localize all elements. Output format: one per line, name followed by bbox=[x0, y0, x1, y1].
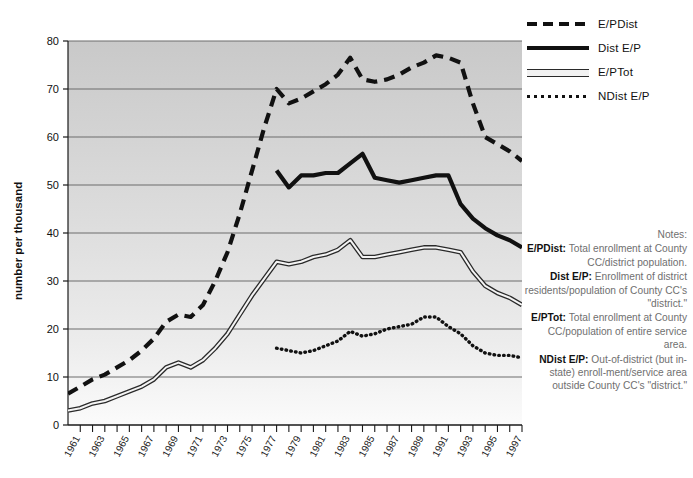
chart-figure: 01020304050607080 1961196319651967196919… bbox=[0, 0, 693, 478]
x-tick-labels: 1961196319651967196919711973197519771979… bbox=[62, 433, 524, 458]
legend-swatch-icon bbox=[527, 42, 589, 54]
legend-line-solid bbox=[527, 46, 589, 50]
notes-heading: Notes: bbox=[523, 228, 687, 241]
note-entry: NDist E/P: Out-of-district (but in-state… bbox=[523, 353, 687, 393]
note-term: NDist E/P: bbox=[539, 354, 588, 365]
note-entry: E/PTot: Total enrollment at County CC/po… bbox=[523, 311, 687, 351]
x-tick-label: 1965 bbox=[111, 433, 131, 458]
note-text: Total enrollment at County CC/district p… bbox=[566, 243, 687, 267]
x-tick-label: 1997 bbox=[504, 433, 524, 458]
y-tick-labels: 01020304050607080 bbox=[47, 35, 59, 431]
x-tick-label: 1973 bbox=[209, 433, 229, 458]
x-ticks bbox=[80, 425, 522, 432]
x-tick-label: 1989 bbox=[405, 433, 425, 458]
legend-item-e-ptot[interactable]: E/PTot bbox=[527, 60, 687, 84]
note-term: E/PDist: bbox=[527, 243, 566, 254]
note-entry: E/PDist: Total enrollment at County CC/d… bbox=[523, 242, 687, 269]
y-tick-label: 30 bbox=[47, 275, 59, 287]
legend-line-double bbox=[527, 69, 589, 77]
legend-swatch-icon bbox=[527, 18, 589, 30]
y-tick-label: 80 bbox=[47, 35, 59, 47]
x-tick-label: 1969 bbox=[160, 433, 180, 458]
note-text: Total enrollment at County CC/population… bbox=[548, 312, 687, 350]
chart-legend: E/PDistDist E/PE/PTotNDist E/P bbox=[527, 12, 687, 108]
note-term: E/PTot: bbox=[531, 312, 566, 323]
legend-swatch-icon bbox=[527, 66, 589, 78]
x-tick-label: 1979 bbox=[283, 433, 303, 458]
legend-label: Dist E/P bbox=[598, 42, 641, 54]
x-tick-label: 1987 bbox=[381, 433, 401, 458]
notes-body: E/PDist: Total enrollment at County CC/d… bbox=[523, 242, 687, 392]
y-tick-label: 70 bbox=[47, 83, 59, 95]
note-entry: Dist E/P: Enrollment of district residen… bbox=[523, 270, 687, 310]
x-tick-label: 1993 bbox=[455, 433, 475, 458]
legend-label: E/PDist bbox=[598, 18, 638, 30]
y-tick-label: 60 bbox=[47, 131, 59, 143]
x-tick-label: 1985 bbox=[356, 433, 376, 458]
legend-label: E/PTot bbox=[598, 66, 633, 78]
x-tick-label: 1991 bbox=[430, 433, 450, 458]
legend-item-dist-e-p[interactable]: Dist E/P bbox=[527, 36, 687, 60]
legend-item-ndist-e-p[interactable]: NDist E/P bbox=[527, 84, 687, 108]
x-tick-label: 1977 bbox=[258, 433, 278, 458]
note-term: Dist E/P: bbox=[550, 271, 592, 282]
chart-notes: Notes: E/PDist: Total enrollment at Coun… bbox=[523, 228, 687, 394]
y-tick-label: 10 bbox=[47, 371, 59, 383]
x-tick-label: 1975 bbox=[234, 433, 254, 458]
y-tick-label: 20 bbox=[47, 323, 59, 335]
legend-line-dotted bbox=[527, 95, 589, 98]
legend-item-e-pdist[interactable]: E/PDist bbox=[527, 12, 687, 36]
y-axis-title: number per thousand bbox=[12, 182, 24, 300]
legend-line-dashed bbox=[527, 22, 589, 26]
x-tick-label: 1971 bbox=[185, 433, 205, 458]
y-tick-label: 0 bbox=[53, 419, 59, 431]
x-tick-label: 1963 bbox=[86, 433, 106, 458]
x-tick-label: 1981 bbox=[307, 433, 327, 458]
legend-swatch-icon bbox=[527, 90, 589, 102]
x-tick-label: 1967 bbox=[135, 433, 155, 458]
x-tick-label: 1983 bbox=[332, 433, 352, 458]
y-tick-label: 50 bbox=[47, 179, 59, 191]
y-tick-label: 40 bbox=[47, 227, 59, 239]
x-tick-label: 1995 bbox=[479, 433, 499, 458]
x-tick-label: 1961 bbox=[62, 433, 82, 458]
legend-label: NDist E/P bbox=[598, 90, 650, 102]
